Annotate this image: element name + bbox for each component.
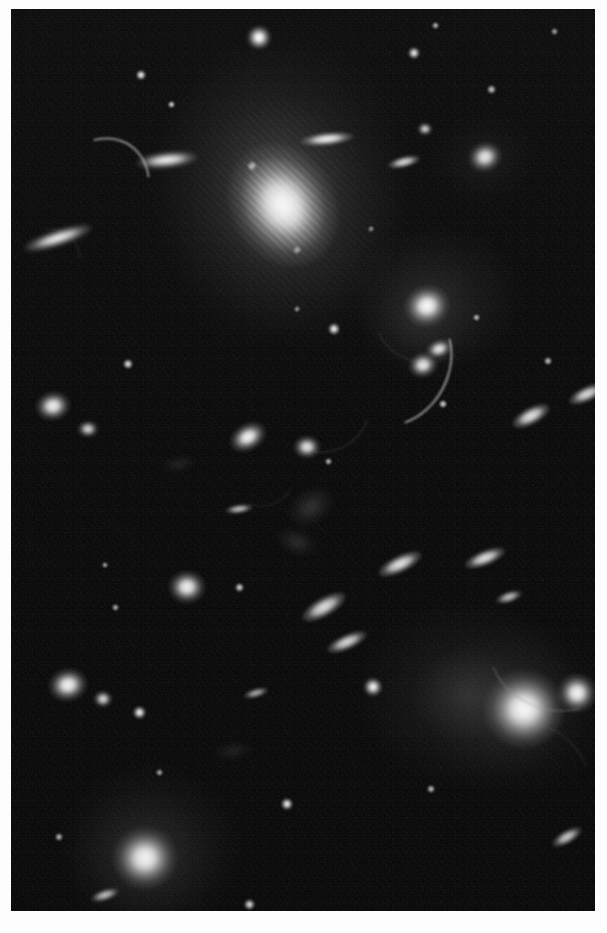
detector-noise-layer-secondary (11, 9, 595, 911)
screenshot-canvas (0, 0, 607, 933)
caption-area (11, 913, 595, 931)
astronomy-image-plate (11, 9, 595, 911)
